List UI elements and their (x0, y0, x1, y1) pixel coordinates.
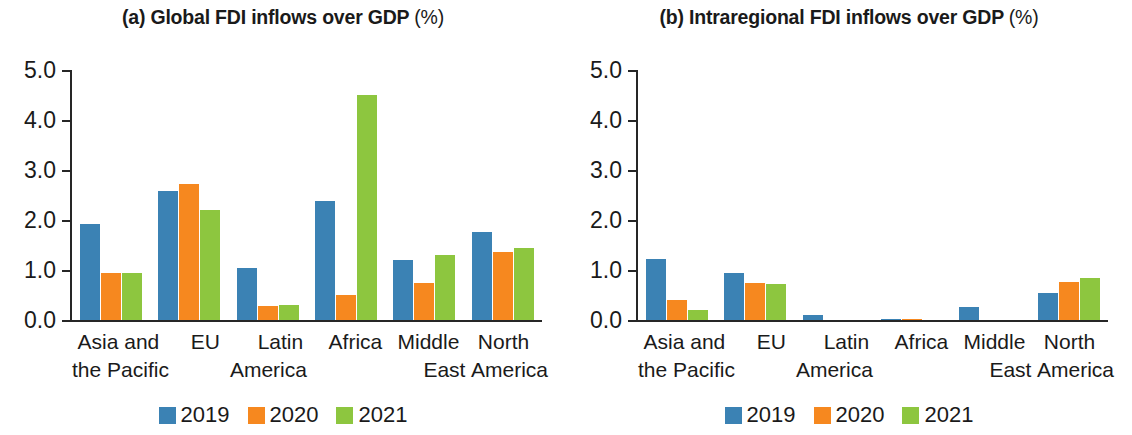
y-tick-mark (62, 320, 71, 322)
y-tick-label: 2.0 (24, 209, 56, 232)
category-label: MiddleEast (392, 328, 465, 394)
y-tick-mark (628, 220, 637, 222)
category-label-line2: the Pacific (638, 356, 735, 384)
bar (258, 306, 278, 320)
y-tick-label: 4.0 (24, 109, 56, 132)
bar (200, 210, 220, 320)
bar (902, 319, 922, 321)
y-tick-label: 2.0 (590, 209, 622, 232)
category-label-line1: Asia and (636, 328, 733, 356)
legend-item: 2021 (902, 404, 973, 426)
category-label-line2: America (471, 356, 548, 384)
y-tick-mark (62, 270, 71, 272)
bar (881, 319, 901, 321)
bar-group (716, 70, 794, 320)
bar-group (638, 70, 716, 320)
bar (279, 305, 299, 320)
y-tick-label: 1.0 (590, 259, 622, 282)
bar-group (795, 70, 873, 320)
category-label-line1: Africa (885, 328, 958, 356)
y-tick-mark (62, 120, 71, 122)
panel-b-legend: 201920202021 (566, 404, 1132, 426)
bar-group (464, 70, 542, 320)
bar (101, 273, 121, 321)
bar (745, 283, 765, 320)
legend-swatch-icon (248, 407, 265, 424)
category-label-line1: Middle (392, 328, 465, 356)
category-label: Africa (319, 328, 392, 394)
legend-label: 2019 (747, 404, 796, 426)
bar (158, 191, 178, 320)
panel-b-plot-area: 5.04.03.02.01.00.0 (636, 70, 1108, 320)
bar (1059, 282, 1079, 321)
category-label-line2: America (796, 356, 873, 384)
panel-a-bar-groups (72, 70, 542, 320)
category-label-line2: America (1037, 356, 1114, 384)
panel-a-plot-area: 5.04.03.02.01.00.0 (70, 70, 542, 320)
y-tick-label: 0.0 (24, 309, 56, 332)
bar-group (385, 70, 463, 320)
legend-label: 2020 (836, 404, 885, 426)
bar-group (229, 70, 307, 320)
legend-item: 2020 (248, 404, 319, 426)
category-label: Asia andthe Pacific (72, 328, 169, 394)
y-tick-mark (62, 170, 71, 172)
panel-b-bar-groups (638, 70, 1108, 320)
bar (493, 252, 513, 320)
y-tick-mark (628, 70, 637, 72)
category-label-line2: the Pacific (72, 356, 169, 384)
legend-swatch-icon (814, 407, 831, 424)
panel-a-category-labels: Asia andthe PacificEULatinAmericaAfricaM… (72, 328, 542, 394)
bar (959, 307, 979, 321)
y-tick-label: 5.0 (24, 59, 56, 82)
bar (472, 232, 492, 321)
category-label: LatinAmerica (242, 328, 319, 394)
legend-swatch-icon (725, 407, 742, 424)
legend-swatch-icon (336, 407, 353, 424)
y-tick-label: 0.0 (590, 309, 622, 332)
y-tick-label: 5.0 (590, 59, 622, 82)
category-label: MiddleEast (958, 328, 1031, 394)
panel-a-title-suffix: (%) (414, 6, 444, 28)
bar (122, 273, 142, 321)
bar-group (951, 70, 1029, 320)
bar (1080, 278, 1100, 320)
panel-a: (a) Global FDI inflows over GDP (%) 5.04… (0, 0, 566, 435)
legend-label: 2021 (358, 404, 407, 426)
legend-item: 2020 (814, 404, 885, 426)
bar (357, 95, 377, 320)
bar (336, 295, 356, 320)
bar (435, 255, 455, 321)
bar (646, 259, 666, 320)
category-label-line2: America (230, 356, 307, 384)
bar-group (307, 70, 385, 320)
category-label-line1: Africa (319, 328, 392, 356)
bar (803, 315, 823, 320)
legend-item: 2019 (725, 404, 796, 426)
panel-a-legend: 201920202021 (0, 404, 566, 426)
y-tick-label: 3.0 (24, 159, 56, 182)
panel-a-title: (a) Global FDI inflows over GDP (%) (0, 6, 566, 29)
bar (667, 300, 687, 321)
y-tick-mark (62, 220, 71, 222)
y-tick-label: 1.0 (24, 259, 56, 282)
y-tick-mark (62, 70, 71, 72)
panel-b: (b) Intraregional FDI inflows over GDP (… (566, 0, 1132, 435)
legend-label: 2021 (924, 404, 973, 426)
bar (414, 283, 434, 321)
legend-swatch-icon (159, 407, 176, 424)
category-label-line1: North (1031, 328, 1108, 356)
y-tick-mark (628, 120, 637, 122)
category-label: Asia andthe Pacific (638, 328, 735, 394)
category-label-line1: Latin (808, 328, 885, 356)
category-label-line1: EU (735, 328, 808, 356)
category-label-line1: Latin (242, 328, 319, 356)
bar-group (72, 70, 150, 320)
bar (393, 260, 413, 320)
panel-b-category-labels: Asia andthe PacificEULatinAmericaAfricaM… (638, 328, 1108, 394)
y-tick-mark (628, 270, 637, 272)
panel-b-title-suffix: (%) (1009, 6, 1039, 28)
category-label: LatinAmerica (808, 328, 885, 394)
legend-label: 2019 (181, 404, 230, 426)
legend-label: 2020 (270, 404, 319, 426)
